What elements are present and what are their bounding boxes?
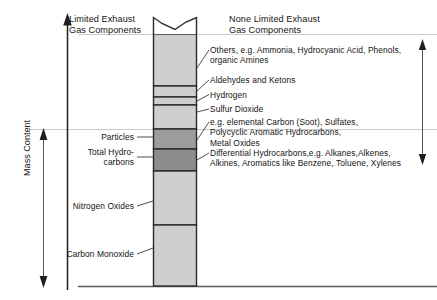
leader-lines-right xyxy=(197,50,209,160)
label-carbon-monoxide: Carbon Monoxide xyxy=(28,249,134,259)
band-particles xyxy=(154,129,197,149)
heading-limited: Limited Exhaust Gas Components xyxy=(69,14,141,37)
leader-co-left xyxy=(137,248,153,254)
label-sulfur-dioxide: Sulfur Dioxide xyxy=(210,104,263,114)
label-particles: Particles xyxy=(34,132,134,142)
label-nitrogen-oxides: Nitrogen Oxides xyxy=(34,201,134,211)
band-others xyxy=(154,34,197,86)
stacked-column xyxy=(154,18,197,287)
leader-particles xyxy=(197,122,209,140)
band-hydrogen xyxy=(154,97,197,105)
heading-none-limited: None Limited Exhaust Gas Components xyxy=(229,14,320,37)
label-particles-detail: e.g. elemental Carbon (Soot), Sulfates, … xyxy=(210,117,358,148)
label-hydrogen: Hydrogen xyxy=(210,90,247,100)
none-limited-range-arrow xyxy=(419,39,426,165)
band-nitrogen-oxides xyxy=(154,171,197,225)
column-break-cap xyxy=(154,18,197,35)
leader-nox-left xyxy=(137,201,153,206)
label-others: Others, e.g. Ammonia, Hydrocyanic Acid, … xyxy=(210,45,401,66)
label-total-hydrocarbons: Total Hydro- carbons xyxy=(34,147,134,168)
axis-title-mass-content: Mass Content xyxy=(22,120,32,176)
band-carbon-monoxide xyxy=(154,225,197,286)
leader-others xyxy=(197,50,209,68)
leader-aldehydes xyxy=(197,80,209,91)
leader-lines-left xyxy=(137,137,153,254)
label-aldehydes-and-ketons: Aldehydes and Ketons xyxy=(210,75,296,85)
diagram-canvas: Mass Content Limited Exhaust Gas Compone… xyxy=(0,0,437,300)
band-sulfur-dioxide xyxy=(154,105,197,129)
band-total-hydrocarbons xyxy=(154,149,197,171)
leader-sulfur xyxy=(197,109,209,112)
leader-hydrogen xyxy=(197,95,209,102)
label-differential-hydrocarbons: Differential Hydrocarbons,e.g. Alkanes,A… xyxy=(210,148,401,169)
band-aldehydes xyxy=(154,86,197,97)
leader-hydrocarbons xyxy=(197,153,209,160)
